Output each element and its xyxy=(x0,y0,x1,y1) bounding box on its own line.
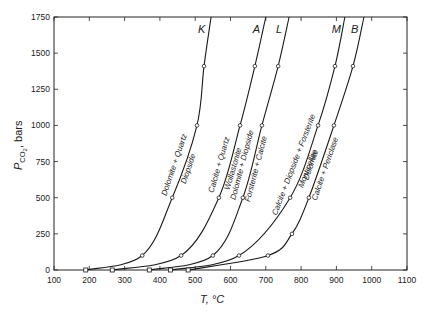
curve-labels: KDolomite + QuartzDiopsideACalcite + Qua… xyxy=(160,23,359,216)
data-point xyxy=(237,254,241,258)
data-point xyxy=(288,196,292,200)
data-point xyxy=(333,64,337,68)
data-point xyxy=(168,268,172,272)
data-point xyxy=(179,254,183,258)
y-tick-label: 750 xyxy=(36,157,50,167)
data-point xyxy=(316,124,320,128)
x-tick-label: 100 xyxy=(47,275,61,285)
x-tick-label: 700 xyxy=(259,275,273,285)
x-tick-label: 200 xyxy=(82,275,96,285)
data-point xyxy=(147,268,151,272)
x-tick-label: 800 xyxy=(294,275,308,285)
data-point xyxy=(217,196,221,200)
data-point xyxy=(202,64,206,68)
curve-id-L: L xyxy=(276,23,282,35)
data-point xyxy=(351,64,355,68)
x-tick-label: 300 xyxy=(118,275,132,285)
data-point xyxy=(84,268,88,272)
y-tick-label: 1000 xyxy=(31,120,50,130)
data-point xyxy=(260,124,264,128)
y-tick-label: 0 xyxy=(45,265,50,275)
curve-K xyxy=(86,17,211,270)
y-axis: 02505007501000125015001750 xyxy=(31,12,407,275)
data-point xyxy=(276,64,280,68)
x-tick-label: 400 xyxy=(153,275,167,285)
data-point xyxy=(332,124,336,128)
x-axis: 10020030040050060070080090010001100 xyxy=(47,17,417,285)
y-tick-label: 1750 xyxy=(31,12,50,22)
chart: 10020030040050060070080090010001100 0250… xyxy=(0,0,424,315)
data-point xyxy=(170,196,174,200)
data-point xyxy=(211,254,215,258)
data-point xyxy=(238,124,242,128)
curve-id-A: A xyxy=(252,23,260,35)
y-tick-label: 250 xyxy=(36,229,50,239)
x-tick-label: 1000 xyxy=(362,275,381,285)
reaction-label: Diopside xyxy=(179,152,198,185)
curve-id-M: M xyxy=(332,23,342,35)
curve-id-B: B xyxy=(351,23,358,35)
chart-svg: 10020030040050060070080090010001100 0250… xyxy=(0,0,424,315)
data-point xyxy=(186,268,190,272)
y-axis-label: PCO2, bars xyxy=(12,120,28,170)
y-tick-label: 1250 xyxy=(31,84,50,94)
data-point xyxy=(290,232,294,236)
plot-frame xyxy=(54,17,407,270)
curve-id-K: K xyxy=(198,23,206,35)
curve-L xyxy=(149,17,289,270)
x-tick-label: 600 xyxy=(223,275,237,285)
data-point xyxy=(266,254,270,258)
x-tick-label: 900 xyxy=(329,275,343,285)
x-axis-label: T, °C xyxy=(200,293,224,305)
y-tick-label: 1500 xyxy=(31,48,50,58)
data-point xyxy=(110,268,114,272)
x-tick-label: 1100 xyxy=(398,275,417,285)
data-point xyxy=(140,254,144,258)
data-point xyxy=(253,64,257,68)
x-tick-label: 500 xyxy=(188,275,202,285)
data-point xyxy=(195,124,199,128)
y-tick-label: 500 xyxy=(36,193,50,203)
